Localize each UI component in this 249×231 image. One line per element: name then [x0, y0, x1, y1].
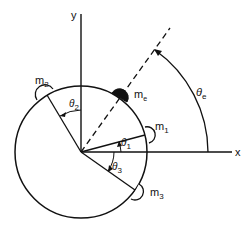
mass-me-label: me	[134, 88, 147, 102]
theta-e-arc	[155, 50, 208, 152]
mass-m1-label: m1	[155, 120, 169, 135]
rotating-disk-diagram: y x m2 θ2 me θe m1 θ1 m3 θ3	[0, 0, 249, 231]
theta-e-label: θe	[196, 86, 207, 101]
radius-line-m1	[81, 135, 145, 152]
theta2-label: θ2	[69, 98, 79, 112]
mass-m3-label: m3	[150, 186, 164, 201]
y-axis-label: y	[71, 9, 77, 21]
x-axis-label: x	[235, 146, 241, 158]
dashed-line-me	[81, 28, 170, 152]
theta2-arrowhead	[60, 112, 66, 117]
theta3-label: θ3	[112, 161, 122, 175]
